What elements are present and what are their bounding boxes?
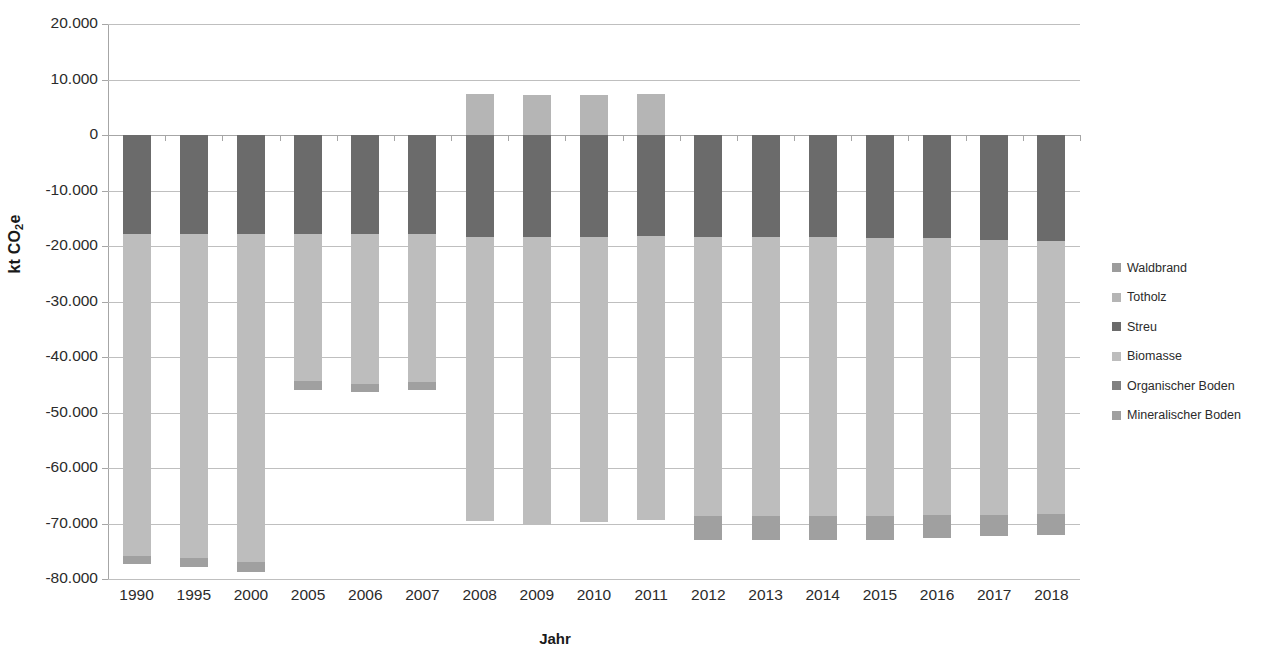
bar-group[interactable] bbox=[923, 24, 951, 579]
bar-segment[interactable] bbox=[980, 135, 1008, 240]
bar-segment[interactable] bbox=[237, 234, 265, 562]
bar-segment[interactable] bbox=[408, 382, 436, 390]
bar-group[interactable] bbox=[523, 24, 551, 579]
bar-group[interactable] bbox=[408, 24, 436, 579]
bar-segment[interactable] bbox=[923, 238, 951, 515]
bar-segment[interactable] bbox=[123, 556, 151, 564]
x-tick bbox=[222, 135, 223, 141]
legend-item-organischer-boden[interactable]: Organischer Boden bbox=[1112, 371, 1266, 401]
bar-segment[interactable] bbox=[294, 234, 322, 381]
x-tick bbox=[280, 135, 281, 141]
bar-segment[interactable] bbox=[180, 234, 208, 558]
bar-segment[interactable] bbox=[752, 135, 780, 237]
legend-item-totholz[interactable]: Totholz bbox=[1112, 283, 1266, 313]
bar-group[interactable] bbox=[580, 24, 608, 579]
bar-segment[interactable] bbox=[351, 234, 379, 383]
x-tick-label: 2007 bbox=[394, 586, 451, 604]
legend-item-biomasse[interactable]: Biomasse bbox=[1112, 342, 1266, 372]
x-tick bbox=[337, 135, 338, 141]
bar-group[interactable] bbox=[123, 24, 151, 579]
bar-segment[interactable] bbox=[1037, 514, 1065, 535]
bar-segment[interactable] bbox=[580, 95, 608, 135]
bar-segment[interactable] bbox=[980, 515, 1008, 537]
legend-item-label: Streu bbox=[1127, 320, 1157, 334]
bar-segment[interactable] bbox=[1037, 135, 1065, 241]
bar-segment[interactable] bbox=[408, 234, 436, 382]
bar-group[interactable] bbox=[351, 24, 379, 579]
legend-swatch-icon bbox=[1112, 352, 1121, 361]
bar-segment[interactable] bbox=[809, 237, 837, 516]
bar-segment[interactable] bbox=[923, 515, 951, 538]
bar-group[interactable] bbox=[637, 24, 665, 579]
bar-segment[interactable] bbox=[351, 135, 379, 234]
bar-segment[interactable] bbox=[237, 562, 265, 571]
bar-segment[interactable] bbox=[980, 240, 1008, 514]
x-tick-label: 1990 bbox=[108, 586, 165, 604]
bar-segment[interactable] bbox=[752, 516, 780, 539]
bar-group[interactable] bbox=[237, 24, 265, 579]
legend-item-waldbrand[interactable]: Waldbrand bbox=[1112, 253, 1266, 283]
bar-segment[interactable] bbox=[523, 237, 551, 525]
bar-segment[interactable] bbox=[180, 135, 208, 234]
bar-segment[interactable] bbox=[637, 236, 665, 520]
bar-segment[interactable] bbox=[408, 135, 436, 234]
bar-segment[interactable] bbox=[866, 135, 894, 238]
chart-legend: WaldbrandTotholzStreuBiomasseOrganischer… bbox=[1112, 253, 1266, 430]
legend-item-label: Organischer Boden bbox=[1127, 379, 1235, 393]
legend-item-mineralischer-boden[interactable]: Mineralischer Boden bbox=[1112, 401, 1266, 431]
x-tick-label: 2005 bbox=[280, 586, 337, 604]
bar-group[interactable] bbox=[866, 24, 894, 579]
bar-segment[interactable] bbox=[351, 384, 379, 392]
x-tick bbox=[908, 135, 909, 141]
bar-segment[interactable] bbox=[694, 135, 722, 237]
bar-segment[interactable] bbox=[694, 237, 722, 517]
y-tick-label: -70.000 bbox=[12, 514, 98, 532]
bar-segment[interactable] bbox=[866, 516, 894, 540]
legend-item-streu[interactable]: Streu bbox=[1112, 312, 1266, 342]
bar-group[interactable] bbox=[980, 24, 1008, 579]
bar-group[interactable] bbox=[466, 24, 494, 579]
plot-area bbox=[108, 24, 1080, 579]
bar-segment[interactable] bbox=[123, 135, 151, 234]
bar-segment[interactable] bbox=[466, 94, 494, 135]
bar-segment[interactable] bbox=[809, 516, 837, 539]
y-tick-label: 20.000 bbox=[12, 14, 98, 32]
bar-segment[interactable] bbox=[866, 238, 894, 517]
y-tick-label: -30.000 bbox=[12, 292, 98, 310]
x-tick-label: 2017 bbox=[966, 586, 1023, 604]
x-tick-label: 2011 bbox=[623, 586, 680, 604]
bar-segment[interactable] bbox=[580, 135, 608, 237]
bar-segment[interactable] bbox=[466, 135, 494, 237]
bar-segment[interactable] bbox=[923, 135, 951, 238]
y-tick-label: 0 bbox=[12, 125, 98, 143]
bar-segment[interactable] bbox=[1037, 241, 1065, 514]
bar-segment[interactable] bbox=[523, 95, 551, 135]
bar-segment[interactable] bbox=[180, 558, 208, 567]
x-tick-label: 2013 bbox=[737, 586, 794, 604]
x-tick bbox=[623, 135, 624, 141]
bar-segment[interactable] bbox=[637, 94, 665, 135]
bar-segment[interactable] bbox=[237, 135, 265, 234]
bar-segment[interactable] bbox=[294, 381, 322, 389]
bar-group[interactable] bbox=[180, 24, 208, 579]
bar-segment[interactable] bbox=[637, 135, 665, 236]
bar-segment[interactable] bbox=[809, 135, 837, 237]
bar-segment[interactable] bbox=[752, 237, 780, 516]
bar-segment[interactable] bbox=[580, 237, 608, 523]
bar-group[interactable] bbox=[294, 24, 322, 579]
legend-swatch-icon bbox=[1112, 411, 1121, 420]
bar-segment[interactable] bbox=[294, 135, 322, 234]
bar-group[interactable] bbox=[694, 24, 722, 579]
bar-segment[interactable] bbox=[466, 237, 494, 521]
bar-group[interactable] bbox=[752, 24, 780, 579]
x-tick-label: 2015 bbox=[851, 586, 908, 604]
bar-segment[interactable] bbox=[694, 516, 722, 540]
bar-segment[interactable] bbox=[123, 234, 151, 555]
legend-swatch-icon bbox=[1112, 293, 1121, 302]
bar-series-layer bbox=[108, 24, 1080, 579]
bar-group[interactable] bbox=[809, 24, 837, 579]
stacked-bar-chart: kt CO2e 20.00010.0000-10.000-20.000-30.0… bbox=[0, 0, 1266, 654]
bar-segment[interactable] bbox=[523, 135, 551, 237]
y-tick-label: -60.000 bbox=[12, 458, 98, 476]
bar-group[interactable] bbox=[1037, 24, 1065, 579]
